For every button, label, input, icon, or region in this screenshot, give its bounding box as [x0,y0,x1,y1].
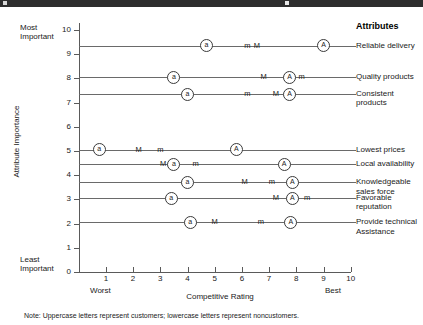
x-tick-label: 5 [207,275,223,283]
x-tick-label: 9 [316,275,332,283]
titlebar-right-indicator [285,1,289,5]
y-tick [74,151,79,152]
x-tick [106,267,107,272]
attribute-row-line [79,94,356,95]
data-marker-m: m [255,218,267,226]
y-tick-label: 3 [55,195,71,203]
data-marker-m: m [301,194,313,202]
data-marker-a: a [167,158,180,171]
attribute-row-line [79,77,356,78]
data-marker-M: M [239,178,251,186]
x-tick-label: 1 [98,275,114,283]
y-tick [74,127,79,128]
x-axis-title: Competitive Rating [140,292,300,301]
data-marker-A: A [283,71,296,84]
y-tick [74,54,79,55]
y-tick [74,224,79,225]
data-marker-a: a [93,143,106,156]
x-tick [242,267,243,272]
titlebar-left-indicator [3,1,7,5]
x-tick-label: 10 [343,275,359,283]
x-tick-label: 8 [288,275,304,283]
y-tick-label: 5 [55,147,71,155]
y-tick-label: 8 [55,74,71,82]
x-tick-label: 2 [125,275,141,283]
data-marker-m: m [154,146,166,154]
x-tick [324,267,325,272]
y-axis-title: Attribute Importance [12,82,21,202]
data-marker-M: M [133,146,145,154]
y-tick-label: 1 [55,244,71,252]
attribute-row-line [79,46,356,47]
data-marker-M: M [251,42,263,50]
x-tick [188,267,189,272]
data-marker-m: m [296,73,308,81]
attribute-row-line [79,198,356,199]
data-marker-A: A [286,192,299,205]
data-marker-m: m [266,178,278,186]
data-marker-a: a [200,39,213,52]
attribute-row-line [79,182,356,183]
y-tick [74,30,79,31]
x-axis-high-label: Best [325,286,341,295]
y-tick [74,175,79,176]
attribute-label: Consistent products [356,89,423,107]
attribute-label: Lowest prices [356,145,423,154]
attribute-row-line [79,164,356,165]
x-tick-label: 4 [180,275,196,283]
y-tick [74,103,79,104]
data-marker-A: A [317,39,330,52]
attributes-heading: Attributes [356,21,399,31]
chart-footnote: Note: Uppercase letters represent custom… [24,312,299,319]
y-tick-label: 9 [55,50,71,58]
y-axis-low-label: Least Important [20,255,68,273]
competitive-rating-scatter-chart: 012345678910 12345678910 amMAaMAmamMAaMm… [0,7,423,325]
attribute-label: Provide technical Assistance [356,217,423,235]
data-marker-a: a [165,192,178,205]
x-tick-label: 6 [234,275,250,283]
attribute-label: Favorable reputation [356,193,423,211]
y-tick [74,272,79,273]
x-tick-label: 7 [261,275,277,283]
data-marker-A: A [283,88,296,101]
x-tick [160,267,161,272]
y-tick-label: 6 [55,123,71,131]
y-tick-label: 2 [55,220,71,228]
y-tick-label: 4 [55,171,71,179]
x-tick [269,267,270,272]
data-marker-A: A [230,143,243,156]
y-axis-high-label: Most Important [20,23,68,41]
data-marker-a: a [181,88,194,101]
window-title-bar [0,0,423,7]
data-marker-A: A [278,158,291,171]
y-tick [74,248,79,249]
attribute-label: Quality products [356,72,423,81]
x-tick [215,267,216,272]
x-axis-line [79,272,351,273]
data-marker-m: m [241,90,253,98]
data-marker-M: M [270,90,282,98]
x-axis-low-label: Worst [90,286,111,295]
data-marker-a: a [184,216,197,229]
data-marker-M: M [258,73,270,81]
data-marker-m: m [190,160,202,168]
x-tick [296,267,297,272]
y-tick [74,199,79,200]
attribute-row-line [79,150,356,151]
x-tick-label: 3 [152,275,168,283]
data-marker-A: A [284,216,297,229]
x-tick [133,267,134,272]
y-tick [74,78,79,79]
data-marker-a: a [167,71,180,84]
attribute-label: Reliable delivery [356,41,423,50]
x-tick [351,267,352,272]
data-marker-a: a [181,176,194,189]
y-axis-line [79,23,80,273]
data-marker-M: M [209,218,221,226]
attribute-label: Local availability [356,159,423,168]
data-marker-M: M [270,194,282,202]
data-marker-A: A [286,176,299,189]
y-tick-label: 7 [55,99,71,107]
